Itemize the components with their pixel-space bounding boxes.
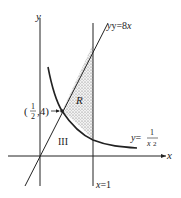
line-label: yy=8x xyxy=(106,20,132,31)
x-axis-arrow-icon xyxy=(161,154,166,158)
intersection-point xyxy=(60,109,64,113)
svg-text:(: ( xyxy=(24,105,28,118)
vertical-line-label: x=1 xyxy=(95,179,111,190)
curve-label: y= 1 x 2 xyxy=(130,128,158,148)
region-diagram: y x yy=8x R III ( 1 2 ,4) y= 1 x 2 x=1 xyxy=(0,0,181,198)
svg-text:1: 1 xyxy=(31,102,35,111)
svg-text:2: 2 xyxy=(153,140,157,148)
x-axis-label: x xyxy=(166,149,172,161)
shaded-region-r xyxy=(62,44,93,140)
point-label: ( 1 2 ,4) xyxy=(24,102,49,121)
svg-text:y=: y= xyxy=(130,132,141,143)
svg-text:1: 1 xyxy=(150,128,154,137)
region-iii-label: III xyxy=(58,136,68,147)
y-axis-label: y xyxy=(35,10,41,22)
point-arrow-head-icon xyxy=(56,109,60,113)
region-r-label: R xyxy=(75,94,83,106)
svg-text:x: x xyxy=(146,139,151,148)
svg-text:,4): ,4) xyxy=(37,105,49,118)
svg-text:2: 2 xyxy=(31,112,35,121)
